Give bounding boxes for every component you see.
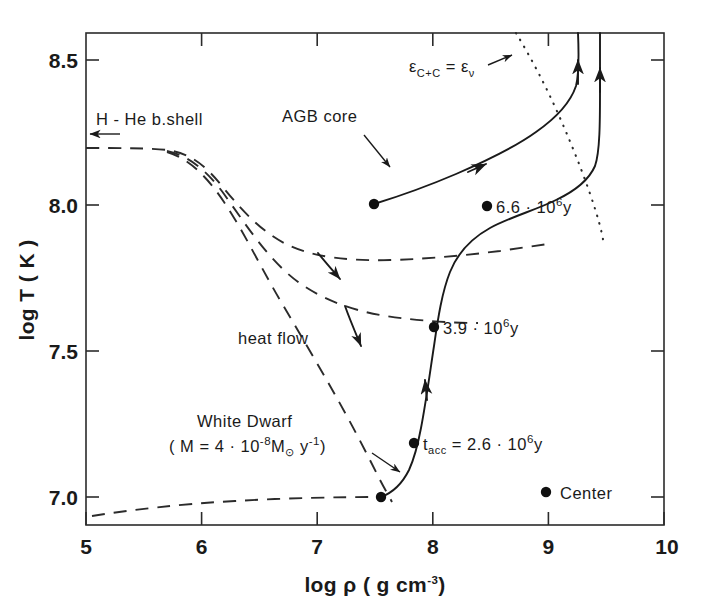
x-axis-title: log ρ ( g cm-3) [304,573,445,596]
annotation-t39: 3.9 · 106y [443,317,519,337]
plot-svg: 5 6 7 8 9 10 8.5 8.0 7.5 7.0 log ρ ( g c… [0,0,704,606]
t66-value: 6.6 · 10 [496,198,556,216]
epsilon-equals: = [441,57,461,75]
tacc-exponent: 6 [527,433,534,445]
wd-rate-year: y [295,437,309,455]
x-tick-label-0: 5 [80,535,92,558]
t39-unit: y [510,319,519,337]
tacc-unit: y [534,435,543,453]
epsilon-nu-subscript: ν [469,67,475,79]
marker-tacc [409,438,419,448]
marker-wd-start [376,492,386,502]
wd-rate-exponent-2: -1 [309,435,320,447]
t39-exponent: 6 [503,317,510,329]
epsilon-nu-symbol: ε [461,57,469,75]
t66-unit: y [563,198,572,216]
y-tick-labels: 8.5 8.0 7.5 7.0 [49,49,79,509]
x-tick-label-1: 6 [196,535,208,558]
heat-flow-arrows [318,253,361,346]
annotation-heat-flow: heat flow [238,329,309,347]
x-axis-title-main: log ρ ( g cm [304,573,427,596]
y-axis-title: log T ( K ) [15,239,38,340]
wd-rate-exponent-1: -8 [260,435,271,447]
white-dwarf-leader [372,453,400,472]
tacc-subscript: acc [428,444,447,456]
x-axis-title-tail: ) [438,573,445,596]
marker-t66 [482,201,492,211]
annotation-epsilon-equation: εC+C = εν [409,57,475,79]
figure-canvas: 5 6 7 8 9 10 8.5 8.0 7.5 7.0 log ρ ( g c… [0,0,704,606]
x-axis-title-exponent: -3 [427,574,438,586]
t39-value: 3.9 · 10 [443,319,503,337]
annotation-white-dwarf-rate: ( M = 4 · 10-8M⊙ y-1) [169,435,326,458]
wd-rate-close: ) [320,437,326,455]
annotation-tacc: tacc = 2.6 · 106y [423,433,543,456]
data-markers [369,199,551,502]
annotation-agb-core: AGB core [282,107,358,125]
wd-rate-mass: M [271,437,285,455]
wd-rate-sun-subscript: ⊙ [285,446,295,458]
x-tick-label-2: 7 [311,535,323,558]
marker-agb-core-start [369,199,379,209]
epsilon-leader [488,55,512,65]
x-tick-labels: 5 6 7 8 9 10 [80,535,679,558]
y-tick-label-2: 7.5 [49,340,79,363]
tacc-value: = 2.6 · 10 [447,435,527,453]
x-tick-label-5: 10 [655,535,678,558]
annotation-white-dwarf: White Dwarf [197,412,292,430]
annotation-legend-center: Center [560,484,613,502]
annotation-h-he-shell: H - He b.shell [96,110,203,128]
marker-t39 [429,322,439,332]
y-tick-label-1: 8.0 [49,194,78,217]
leader-lines [364,55,512,472]
annotation-t66: 6.6 · 106y [496,196,572,216]
y-tick-label-0: 8.5 [49,49,79,72]
curve-wd-baseline [92,497,381,516]
t66-exponent: 6 [556,196,563,208]
x-tick-label-3: 8 [427,535,439,558]
annotation-texts: H - He b.shell AGB core heat flow εC+C =… [96,57,613,502]
x-tick-label-4: 9 [543,535,555,558]
wd-rate-open: ( M = 4 · 10 [169,437,260,455]
epsilon-cc-subscript: C+C [417,67,441,79]
marker-legend-center [541,487,551,497]
curve-agb-core-track [374,33,579,204]
epsilon-cc-symbol: ε [409,57,417,75]
y-tick-label-3: 7.0 [49,486,78,509]
agb-core-leader [364,135,390,167]
